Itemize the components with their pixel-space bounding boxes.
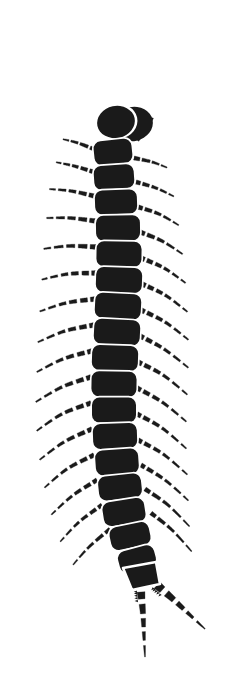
body-segment-5 (96, 241, 141, 267)
cercus-center-segment (141, 618, 146, 627)
centipede-illustration: Centipede (0, 0, 230, 691)
body-segment-4 (96, 215, 140, 241)
body-segment-6 (96, 267, 143, 294)
body-segment-7 (94, 292, 141, 319)
leg-left-7-segment (80, 298, 88, 303)
body-segment-2 (93, 164, 135, 191)
leg-left-5-segment (66, 244, 74, 247)
body-segment-8 (93, 318, 140, 345)
leg-left-6-segment (71, 271, 78, 275)
leg-left-6-segment (82, 271, 89, 275)
leg-left-4-segment (56, 217, 64, 220)
body-segment-12 (93, 423, 138, 450)
cercus-center-segment (137, 592, 145, 600)
body-segment-3 (95, 189, 138, 214)
body-segment-1 (93, 138, 133, 166)
body-segment-11 (92, 398, 136, 423)
cercus-center-segment (139, 604, 145, 614)
illustration-canvas: Centipede (0, 0, 230, 691)
body-segment-13 (95, 448, 140, 476)
body-segment-9 (92, 345, 139, 372)
leg-left-4-segment (47, 217, 54, 219)
body-segment-10 (91, 371, 136, 397)
leg-left-5-segment (78, 244, 87, 248)
